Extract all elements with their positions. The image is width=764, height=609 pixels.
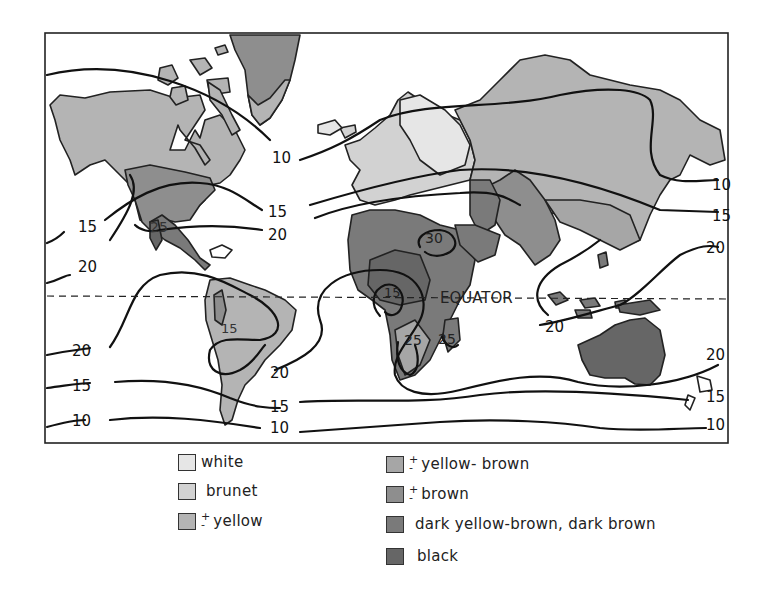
svg-text:20: 20 [268,226,287,244]
svg-text:20: 20 [72,342,91,360]
plus-minus-icon: +- [409,486,418,502]
svg-text:20: 20 [706,239,725,257]
legend-item-yellow-brown: +- yellow- brown [386,455,530,473]
legend-item-brunet: brunet [178,482,258,500]
legend-label: brunet [206,482,258,500]
world-skin-color-map: 10 15 20 15 20 20 15 10 20 15 10 10 15 2… [0,0,764,450]
legend-item-yellow: +- yellow [178,512,263,530]
legend-label: white [201,453,244,471]
svg-text:15: 15 [384,285,401,300]
plus-minus-icon: +- [201,513,210,529]
swatch-yellow [178,513,196,530]
svg-text:25: 25 [150,219,168,235]
legend-label: black [417,547,458,565]
svg-text:10: 10 [270,419,289,437]
svg-text:10: 10 [712,176,731,194]
swatch-brunet [178,483,196,500]
equator-label: EQUATOR [440,289,513,307]
svg-text:30: 30 [425,230,443,246]
svg-text:10: 10 [272,149,291,167]
swatch-yellow-brown [386,456,404,473]
svg-text:15: 15 [268,203,287,221]
svg-text:15: 15 [221,321,238,336]
legend-item-white: white [178,453,244,471]
svg-text:10: 10 [72,412,91,430]
legend-item-dark-brown: dark yellow-brown, dark brown [386,515,656,533]
legend-label: dark yellow-brown, dark brown [415,515,656,533]
legend-item-black: black [386,547,458,565]
legend-item-brown: +- brown [386,485,469,503]
svg-text:20: 20 [270,364,289,382]
swatch-dark [386,516,404,533]
svg-text:15: 15 [712,207,731,225]
plus-minus-icon: +- [409,456,418,472]
legend-label: yellow [213,512,263,530]
legend-label: yellow- brown [421,455,529,473]
svg-text:20: 20 [78,258,97,276]
swatch-white [178,454,196,471]
svg-text:25: 25 [438,331,456,347]
svg-text:15: 15 [78,218,97,236]
legend-label: brown [421,485,469,503]
svg-text:10: 10 [706,416,725,434]
svg-text:15: 15 [706,388,725,406]
svg-text:20: 20 [545,318,564,336]
svg-text:15: 15 [72,377,91,395]
svg-text:25: 25 [404,332,422,348]
swatch-brown [386,486,404,503]
svg-text:15: 15 [270,398,289,416]
swatch-black [386,548,404,565]
svg-text:20: 20 [706,346,725,364]
